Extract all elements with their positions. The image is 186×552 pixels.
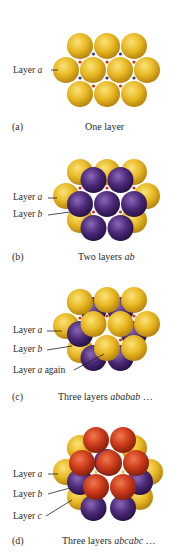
label-layer-b: Layer b xyxy=(13,210,42,220)
caption-prefix: Three layers xyxy=(62,535,114,546)
leader-line xyxy=(48,488,70,494)
label-prefix: Layer xyxy=(13,65,38,75)
leader-line xyxy=(48,212,70,215)
label-prefix: Layer xyxy=(13,511,38,521)
leader-line xyxy=(46,500,72,516)
caption-prefix: Three layers xyxy=(58,391,110,402)
label-italic: b xyxy=(38,344,43,354)
label-prefix: Layer xyxy=(13,325,38,335)
label-italic: a xyxy=(38,469,43,479)
panel-a-spheres xyxy=(53,33,160,107)
label-italic: b xyxy=(38,489,43,499)
caption-d: Three layers abcabc … xyxy=(62,535,156,546)
label-prefix: Layer xyxy=(13,192,38,202)
caption-suffix: … xyxy=(143,535,156,546)
label-prefix: Layer xyxy=(13,469,38,479)
caption-letter-c: (c) xyxy=(12,391,23,402)
label-layer-a: Layer a xyxy=(13,66,42,76)
label-suffix: again xyxy=(42,365,65,375)
panel-c-spheres xyxy=(53,287,160,371)
caption-suffix: … xyxy=(140,391,153,402)
caption-letter-a: (a) xyxy=(12,121,23,132)
caption-letter-b: (b) xyxy=(12,251,24,262)
label-italic: b xyxy=(38,209,43,219)
caption-b: Two layers ab xyxy=(78,251,135,262)
caption-c: Three layers ababab … xyxy=(58,391,153,402)
label-prefix: Layer xyxy=(13,365,38,375)
label-layer-b: Layer b xyxy=(13,490,42,500)
caption-letter-d: (d) xyxy=(12,535,24,546)
label-italic: c xyxy=(38,511,42,521)
caption-prefix: One layer xyxy=(85,121,124,132)
caption-italic: ababab xyxy=(110,391,140,402)
label-layer-a: Layer a xyxy=(13,470,42,480)
label-prefix: Layer xyxy=(13,344,38,354)
label-layer-a-again: Layer a again xyxy=(13,366,65,376)
panel-d-spheres xyxy=(53,427,163,521)
label-layer-c: Layer c xyxy=(13,512,42,522)
label-prefix: Layer xyxy=(13,489,38,499)
label-layer-a: Layer a xyxy=(13,193,42,203)
caption-italic: abcabc xyxy=(114,535,143,546)
caption-italic: ab xyxy=(125,251,135,262)
label-italic: a xyxy=(38,192,43,202)
caption-a: One layer xyxy=(85,121,124,132)
label-layer-a: Layer a xyxy=(13,326,42,336)
label-prefix: Layer xyxy=(13,209,38,219)
label-italic: a xyxy=(38,65,43,75)
panel-b-spheres xyxy=(53,159,160,241)
label-italic: a xyxy=(38,325,43,335)
caption-prefix: Two layers xyxy=(78,251,125,262)
label-layer-b: Layer b xyxy=(13,345,42,355)
